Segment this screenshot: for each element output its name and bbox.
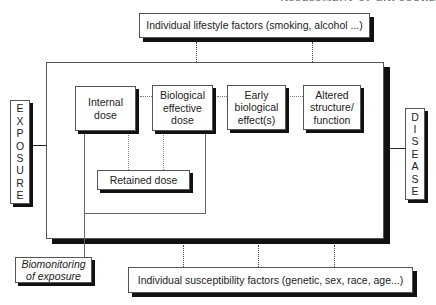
internal-dose-line: Internal bbox=[88, 96, 123, 109]
disease-letter: S bbox=[411, 135, 418, 147]
retained-dose-label: Retained dose bbox=[110, 174, 178, 187]
disease-letter: A bbox=[411, 160, 418, 172]
internal-dose-line: dose bbox=[94, 109, 117, 122]
disease-connector bbox=[390, 148, 405, 149]
susceptibility-connector-3 bbox=[334, 245, 335, 267]
early-effect-line: biological bbox=[235, 101, 279, 114]
lifestyle-connector-1 bbox=[196, 42, 197, 62]
internal-to-retained-connector bbox=[128, 131, 129, 170]
effective-dose-line: Biological bbox=[160, 89, 205, 102]
biomonitoring-connector bbox=[84, 214, 85, 257]
exposure-letter: E bbox=[16, 102, 23, 114]
page-running-header: ASSESSMENT OF EXPOSURE bbox=[281, 0, 436, 3]
early-to-altered-connector bbox=[290, 96, 303, 97]
disease-box: D I S E A S E bbox=[405, 108, 425, 200]
exposure-letter: R bbox=[16, 177, 24, 189]
altered-structure-line: Altered bbox=[315, 89, 348, 102]
biomonitoring-line: of exposure bbox=[26, 270, 81, 282]
effective-to-early-connector bbox=[217, 96, 227, 97]
exposure-box: E X P O S U R E bbox=[10, 100, 30, 204]
disease-letter: D bbox=[411, 111, 419, 123]
biological-effective-dose-box: Biological effective dose bbox=[152, 85, 213, 131]
exposure-letter: S bbox=[16, 152, 23, 164]
exposure-letter: O bbox=[16, 140, 24, 152]
retained-dose-box: Retained dose bbox=[97, 170, 190, 190]
exposure-letter: X bbox=[16, 115, 23, 127]
susceptibility-connector-2 bbox=[258, 245, 259, 267]
exposure-letter: U bbox=[16, 164, 24, 176]
lifestyle-factors-label: Individual lifestyle factors (smoking, a… bbox=[146, 19, 363, 32]
susceptibility-factors-box: Individual susceptibility factors (genet… bbox=[128, 267, 413, 293]
disease-letter: E bbox=[411, 148, 418, 160]
disease-letter: I bbox=[414, 123, 417, 135]
effective-dose-line: effective bbox=[163, 102, 202, 115]
internal-to-effective-connector bbox=[140, 96, 152, 97]
effective-to-retained-connector bbox=[163, 131, 164, 170]
susceptibility-connector-1 bbox=[183, 245, 184, 267]
early-effect-line: Early bbox=[245, 89, 269, 102]
biomonitoring-box: Biomonitoring of exposure bbox=[15, 257, 92, 283]
exposure-letter: E bbox=[16, 189, 23, 201]
lifestyle-factors-box: Individual lifestyle factors (smoking, a… bbox=[139, 13, 370, 38]
early-biological-effect-box: Early biological effect(s) bbox=[227, 85, 286, 130]
early-effect-line: effect(s) bbox=[238, 114, 276, 127]
altered-structure-line: function bbox=[314, 114, 351, 127]
altered-structure-line: structure/ bbox=[310, 101, 354, 114]
biomonitoring-line: Biomonitoring bbox=[21, 258, 85, 270]
exposure-letter: P bbox=[16, 127, 23, 139]
exposure-connector bbox=[33, 145, 46, 146]
effective-dose-line: dose bbox=[171, 114, 194, 127]
internal-dose-box: Internal dose bbox=[75, 86, 136, 131]
susceptibility-factors-label: Individual susceptibility factors (genet… bbox=[138, 274, 404, 287]
disease-letter: E bbox=[411, 185, 418, 197]
lifestyle-connector-2 bbox=[312, 42, 313, 62]
altered-structure-box: Altered structure/ function bbox=[303, 85, 361, 130]
disease-letter: S bbox=[411, 173, 418, 185]
